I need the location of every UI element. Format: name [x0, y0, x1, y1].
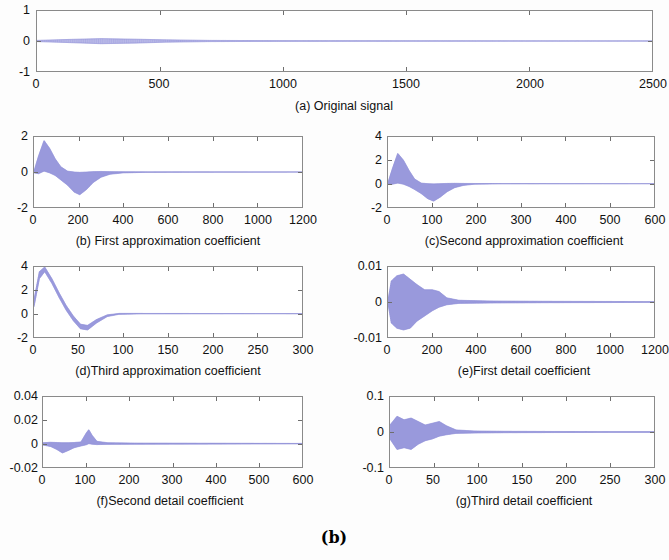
- subplot-a-caption: (a) Original signal: [295, 100, 393, 113]
- axis-tick-mark: [168, 333, 169, 337]
- subplot-c-ytick-2: 0: [354, 178, 382, 191]
- subplot-e-ytick-1: 0: [342, 296, 382, 309]
- axis-tick-mark: [173, 397, 174, 401]
- axis-tick-mark: [477, 203, 478, 207]
- subplot-c-ytick-3: -2: [354, 202, 382, 215]
- subplot-f-ytick-0: 0.04: [0, 390, 38, 403]
- axis-tick-mark: [298, 420, 302, 421]
- subplot-b-ytick-0: 2: [0, 130, 28, 143]
- subplot-f-xtick-2: 200: [119, 474, 140, 487]
- subplot-f-xtick-5: 500: [249, 474, 270, 487]
- axis-tick-mark: [566, 397, 567, 401]
- subplot-b-xtick-4: 800: [203, 214, 224, 227]
- axis-tick-mark: [213, 137, 214, 141]
- subplot-a-ytick-2: -1: [0, 66, 30, 79]
- subplot-e-xtick-3: 600: [511, 344, 532, 357]
- axis-tick-mark: [477, 137, 478, 141]
- subplot-f-xtick-6: 600: [293, 474, 314, 487]
- figure-panel-letter: (b): [321, 528, 347, 547]
- subplot-d-caption: (d)Third approximation coefficient: [75, 365, 260, 378]
- axis-tick-mark: [477, 333, 478, 337]
- axis-tick-mark: [34, 314, 38, 315]
- axis-tick-mark: [521, 137, 522, 141]
- subplot-e-plot-area: [387, 266, 655, 338]
- subplot-b-xtick-1: 200: [68, 214, 89, 227]
- subplot-f-caption: (f)Second detail coefficient: [96, 495, 243, 508]
- subplot-a-xtick-5: 2500: [639, 78, 667, 91]
- axis-tick-mark: [477, 267, 478, 271]
- subplot-d-xtick-2: 100: [113, 344, 134, 357]
- axis-tick-mark: [434, 463, 435, 467]
- subplot-g-xtick-4: 200: [556, 474, 577, 487]
- subplot-b-ytick-2: -2: [0, 202, 28, 215]
- subplot-f-ytick-2: 0: [0, 438, 38, 451]
- subplot-b: 2 0 -2 0 200 400 600 800 1000 1200 (b) F…: [0, 130, 334, 258]
- axis-tick-mark: [610, 267, 611, 271]
- axis-tick-mark: [390, 432, 394, 433]
- axis-tick-mark: [565, 203, 566, 207]
- subplot-e: 0.01 0 -0.01 0 200 400 600 800 1000 1200…: [334, 260, 668, 388]
- axis-tick-mark: [298, 444, 302, 445]
- subplot-g-caption: (g)Third detail coefficient: [456, 495, 593, 508]
- axis-tick-mark: [257, 333, 258, 337]
- subplot-f-ytick-1: 0.02: [0, 414, 38, 427]
- subplot-g-xtick-1: 50: [426, 474, 440, 487]
- axis-tick-mark: [478, 463, 479, 467]
- axis-tick-mark: [566, 463, 567, 467]
- axis-tick-mark: [529, 67, 530, 71]
- axis-tick-mark: [432, 203, 433, 207]
- subplot-d-ytick-3: -2: [0, 332, 28, 345]
- axis-tick-mark: [43, 420, 47, 421]
- subplot-d-xtick-0: 0: [30, 344, 37, 357]
- subplot-d-xtick-1: 50: [71, 344, 85, 357]
- axis-tick-mark: [123, 137, 124, 141]
- subplot-g: 0.1 0 -0.1 0 50 100 150 200 250 300 (g)T…: [334, 390, 668, 518]
- axis-tick-mark: [388, 160, 392, 161]
- subplot-c-plot-area: [387, 136, 655, 208]
- axis-tick-mark: [478, 397, 479, 401]
- subplot-c-ytick-1: 2: [354, 154, 382, 167]
- axis-tick-mark: [406, 67, 407, 71]
- subplot-e-xtick-5: 1000: [596, 344, 624, 357]
- axis-tick-mark: [298, 314, 302, 315]
- subplot-f-xtick-1: 100: [75, 474, 96, 487]
- axis-tick-mark: [129, 463, 130, 467]
- axis-tick-mark: [521, 333, 522, 337]
- subplot-g-ytick-0: 0.1: [348, 390, 384, 403]
- subplot-f: 0.04 0.02 0 -0.02 0 100 200 300 400 500 …: [0, 390, 334, 518]
- axis-tick-mark: [283, 11, 284, 15]
- axis-tick-mark: [565, 137, 566, 141]
- axis-tick-mark: [283, 67, 284, 71]
- axis-tick-mark: [123, 267, 124, 271]
- axis-tick-mark: [388, 302, 392, 303]
- axis-tick-mark: [388, 184, 392, 185]
- subplot-d-xtick-6: 300: [293, 344, 314, 357]
- axis-tick-mark: [86, 463, 87, 467]
- subplot-g-xtick-2: 100: [467, 474, 488, 487]
- subplot-e-xtick-6: 1200: [641, 344, 669, 357]
- axis-tick-mark: [432, 267, 433, 271]
- axis-tick-mark: [650, 302, 654, 303]
- subplot-b-xtick-2: 400: [113, 214, 134, 227]
- subplot-d-ytick-2: 0: [0, 308, 28, 321]
- axis-tick-mark: [610, 333, 611, 337]
- axis-tick-mark: [168, 137, 169, 141]
- subplot-d-xtick-5: 250: [248, 344, 269, 357]
- subplot-b-plot-area: [33, 136, 303, 208]
- axis-tick-mark: [34, 290, 38, 291]
- subplot-g-xtick-5: 250: [600, 474, 621, 487]
- subplot-d-ytick-0: 4: [0, 260, 28, 273]
- axis-tick-mark: [168, 203, 169, 207]
- subplot-d-xtick-4: 200: [203, 344, 224, 357]
- axis-tick-mark: [123, 203, 124, 207]
- subplot-a-xtick-0: 0: [33, 78, 40, 91]
- axis-tick-mark: [565, 267, 566, 271]
- axis-tick-mark: [216, 463, 217, 467]
- axis-tick-mark: [43, 444, 47, 445]
- subplot-b-ytick-1: 0: [0, 166, 28, 179]
- subplot-c-xtick-5: 500: [600, 214, 621, 227]
- subplot-c-xtick-3: 300: [511, 214, 532, 227]
- axis-tick-mark: [79, 203, 80, 207]
- axis-tick-mark: [522, 397, 523, 401]
